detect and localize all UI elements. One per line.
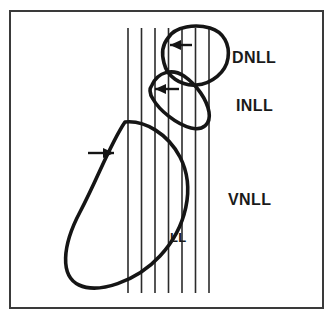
canvas-background (0, 0, 334, 319)
label-vnll: VNLL (228, 191, 271, 208)
label-dnll: DNLL (232, 49, 276, 66)
label-inll: INLL (236, 97, 273, 114)
figure-container: DNLLINLLVNLLLL (0, 0, 334, 319)
label-ll: LL (170, 230, 186, 245)
ll-nuclei-diagram: DNLLINLLVNLLLL (0, 0, 334, 319)
